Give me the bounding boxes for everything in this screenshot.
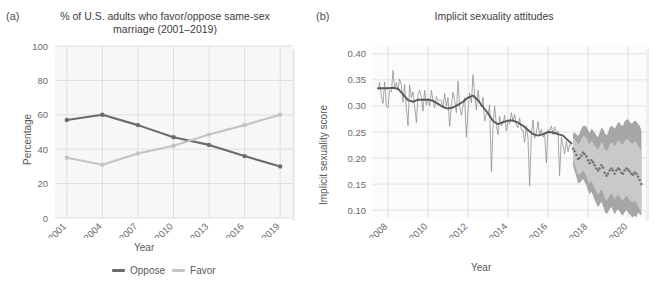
panel-a: (a) % of U.S. adults who favor/oppose sa…	[0, 0, 330, 284]
forecast-point	[613, 172, 616, 175]
ytick-label: 0.20	[348, 153, 367, 164]
xtick-label: 2001	[46, 221, 69, 238]
xtick-label: 2014	[487, 221, 510, 238]
xtick-label: 2007	[117, 221, 140, 238]
forecast-point	[592, 161, 595, 164]
forecast-point	[588, 162, 591, 165]
panel-b-chart-svg: 0.100.150.200.250.300.350.40200820102012…	[330, 38, 659, 238]
panel-b-shadow-right	[646, 49, 649, 221]
forecast-point	[598, 167, 601, 170]
panel-a-plot: 0204060801002001200420072010201320162019	[0, 38, 330, 238]
series-point-favor	[171, 144, 175, 148]
panel-a-ylabel: Percentage	[22, 114, 33, 165]
ytick-label: 100	[32, 41, 48, 52]
ytick-label: 0.15	[348, 179, 367, 190]
forecast-point	[602, 166, 605, 169]
forecast-point	[597, 169, 600, 172]
legend-item-oppose: Oppose	[112, 265, 165, 276]
series-point-oppose	[278, 164, 282, 168]
forecast-point	[637, 176, 640, 179]
ytick-label: 60	[37, 109, 48, 120]
panel-b-xlabel: Year	[471, 262, 491, 273]
ytick-label: 0.25	[348, 127, 367, 138]
forecast-point	[572, 147, 575, 150]
forecast-point	[628, 170, 631, 173]
forecast-point	[618, 168, 621, 171]
panel-b-title: Implicit sexuality attitudes	[358, 10, 630, 23]
panel-a-ytick-labels: 020406080100	[32, 41, 48, 224]
xtick-label: 2008	[367, 221, 390, 238]
forecast-point	[573, 150, 576, 153]
forecast-point	[635, 172, 638, 175]
forecast-point	[603, 171, 606, 174]
xtick-label: 2020	[607, 221, 630, 238]
legend-item-favor: Favor	[172, 265, 216, 276]
ytick-label: 80	[37, 75, 48, 86]
forecast-point	[610, 167, 613, 170]
xtick-label: 2018	[567, 221, 590, 238]
panel-b-ytick-labels: 0.100.150.200.250.300.350.40	[348, 48, 367, 215]
series-point-oppose	[65, 118, 69, 122]
legend-swatch-oppose	[112, 269, 125, 271]
ytick-label: 0.30	[348, 100, 367, 111]
forecast-point	[600, 164, 603, 167]
forecast-point	[640, 183, 643, 186]
xtick-label: 2016	[527, 221, 550, 238]
series-point-oppose	[136, 123, 140, 127]
forecast-point	[580, 154, 583, 157]
forecast-point	[608, 169, 611, 172]
panel-a-title-line2: marriage (2001–2019)	[113, 23, 217, 35]
legend-swatch-favor	[172, 269, 185, 271]
panel-a-xtick-labels: 2001200420072010201320162019	[46, 221, 282, 238]
series-point-favor	[207, 132, 211, 136]
series-point-oppose	[100, 113, 104, 117]
forecast-point	[575, 154, 578, 157]
xtick-label: 2004	[81, 221, 104, 238]
xtick-label: 2019	[259, 221, 282, 238]
forecast-point	[623, 169, 626, 172]
series-point-favor	[136, 151, 140, 155]
ytick-label: 0.40	[348, 48, 367, 59]
forecast-point	[595, 167, 598, 170]
xtick-label: 2010	[407, 221, 430, 238]
ytick-label: 0.10	[348, 205, 367, 216]
series-point-favor	[278, 113, 282, 117]
forecast-point	[605, 175, 608, 178]
forecast-point	[622, 172, 625, 175]
ytick-label: 40	[37, 144, 48, 155]
panel-a-title: % of U.S. adults who favor/oppose same-s…	[36, 10, 294, 35]
series-point-favor	[100, 162, 104, 166]
forecast-point	[627, 168, 630, 171]
forecast-point	[587, 159, 590, 162]
forecast-point	[612, 169, 615, 172]
panel-a-xlabel: Year	[134, 242, 154, 253]
forecast-point	[632, 173, 635, 176]
forecast-point	[638, 179, 641, 182]
series-point-favor	[242, 123, 246, 127]
panel-a-legend: Oppose Favor	[112, 265, 216, 276]
panel-b-xtick-labels: 2008201020122014201620182020	[367, 221, 630, 238]
xtick-label: 2016	[223, 221, 246, 238]
xtick-label: 2013	[188, 221, 211, 238]
panel-b: (b) Implicit sexuality attitudes 0.100.1…	[330, 0, 659, 284]
xtick-label: 2010	[152, 221, 175, 238]
panel-a-tag: (a)	[6, 10, 19, 22]
forecast-point	[585, 155, 588, 158]
legend-label-oppose: Oppose	[130, 265, 165, 276]
forecast-point	[590, 159, 593, 162]
forecast-point	[583, 153, 586, 156]
forecast-point	[593, 164, 596, 167]
panel-a-title-line1: % of U.S. adults who favor/oppose same-s…	[60, 10, 270, 22]
series-point-favor	[65, 156, 69, 160]
forecast-point	[578, 157, 581, 160]
xtick-label: 2012	[447, 221, 470, 238]
ytick-label: 0.35	[348, 74, 367, 85]
panel-b-tag: (b)	[316, 10, 329, 22]
forecast-point	[615, 169, 618, 172]
panel-b-ylabel: Implicit sexuality score	[318, 105, 329, 205]
panel-b-plot: 0.100.150.200.250.300.350.40200820102012…	[330, 38, 659, 238]
panel-a-chart-svg: 0204060801002001200420072010201320162019	[0, 38, 330, 238]
forecast-point	[607, 172, 610, 175]
legend-label-favor: Favor	[190, 265, 216, 276]
series-point-oppose	[242, 154, 246, 158]
